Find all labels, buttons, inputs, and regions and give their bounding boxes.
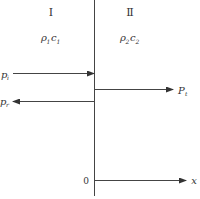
svg-text:2: 2 — [135, 38, 140, 45]
region-2-numeral: Ⅱ — [126, 6, 133, 19]
svg-text:P: P — [177, 85, 185, 96]
svg-text:2: 2 — [125, 38, 130, 45]
wave-interface-diagram: Ⅰ Ⅱ ρ 1 c 1 ρ 2 c 2 p i p r P t 0 x — [0, 0, 200, 199]
medium-1-label: ρ 1 c 1 — [40, 32, 60, 45]
svg-text:i: i — [7, 74, 9, 81]
transmitted-wave: P t — [95, 85, 188, 97]
reflected-wave: p r — [0, 96, 94, 108]
svg-text:1: 1 — [57, 38, 61, 45]
svg-text:r: r — [6, 101, 10, 108]
x-axis: 0 x — [83, 175, 197, 186]
medium-2-label: ρ 2 c 2 — [119, 32, 140, 45]
origin-label: 0 — [83, 176, 89, 186]
svg-text:1: 1 — [47, 38, 51, 45]
incident-wave: p i — [1, 69, 94, 81]
region-1-numeral: Ⅰ — [49, 6, 53, 19]
svg-text:t: t — [185, 90, 188, 97]
x-axis-label: x — [191, 175, 197, 186]
